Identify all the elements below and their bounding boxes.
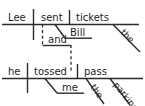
- word-parking: parking: [111, 80, 140, 106]
- sentence-diagram: Lee sent tickets Bill the and he tossed …: [0, 0, 145, 106]
- word-pass: pass: [84, 66, 107, 77]
- word-the-bottom: the: [88, 82, 105, 100]
- word-tossed: tossed: [34, 66, 67, 77]
- word-and: and: [48, 34, 67, 45]
- word-me: me: [62, 82, 78, 93]
- word-tickets: tickets: [76, 12, 109, 23]
- word-the-top: the: [119, 27, 137, 45]
- word-sent: sent: [41, 12, 63, 23]
- word-bill: Bill: [70, 27, 85, 38]
- word-lee: Lee: [8, 12, 26, 23]
- word-layer: Lee sent tickets Bill the and he tossed …: [0, 0, 145, 106]
- word-he: he: [8, 66, 21, 77]
